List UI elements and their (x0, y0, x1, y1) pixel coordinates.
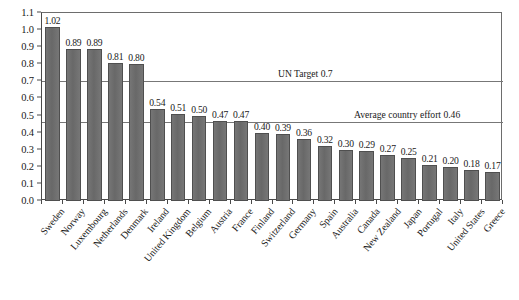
bar (234, 121, 249, 201)
bar (87, 49, 102, 201)
bar-group: 0.80 (126, 13, 147, 201)
chart-figure: 1.11.00.90.80.70.60.50.40.30.20.10.0 UN … (0, 0, 519, 300)
bar (443, 167, 458, 201)
bar-group: 0.51 (168, 13, 189, 201)
bar (192, 116, 207, 201)
bar (276, 134, 291, 201)
bar-value-label: 0.39 (275, 122, 291, 133)
bar-value-label: 0.18 (464, 158, 480, 169)
bar-value-label: 0.50 (191, 104, 207, 115)
bar (150, 109, 165, 201)
bar-group: 0.89 (84, 13, 105, 201)
bar-value-label: 0.32 (317, 134, 333, 145)
x-axis-tick-mark (502, 200, 503, 204)
bar (359, 151, 374, 201)
y-axis-tick-label: 0.2 (21, 160, 34, 171)
y-axis-tick-label: 0.3 (21, 143, 34, 154)
bar-group: 0.18 (461, 13, 482, 201)
bar (213, 121, 228, 201)
bar-group: 0.40 (252, 13, 273, 201)
bar-value-label: 0.54 (149, 97, 165, 108)
bar-group: 0.29 (356, 13, 377, 201)
bar (464, 170, 479, 201)
bar (297, 139, 312, 201)
bar-group: 0.47 (210, 13, 231, 201)
bar (485, 172, 500, 201)
y-axis-tick-label: 0.8 (21, 58, 34, 69)
bar-group: 0.47 (231, 13, 252, 201)
bar-series: 1.020.890.890.810.800.540.510.500.470.47… (42, 13, 503, 201)
y-axis-tick-label: 1.1 (21, 7, 34, 18)
y-axis-tick-label: 0.0 (21, 195, 34, 206)
bar-value-label: 0.80 (128, 52, 144, 63)
y-axis-tick-label: 0.6 (21, 92, 34, 103)
bar-value-label: 1.02 (44, 15, 60, 26)
bar-group: 0.89 (63, 13, 84, 201)
bar (380, 155, 395, 201)
y-axis-tick-label: 0.7 (21, 75, 34, 86)
bar-group: 0.20 (440, 13, 461, 201)
bar (66, 49, 81, 201)
bar-group: 1.02 (42, 13, 63, 201)
bar (318, 146, 333, 201)
bar (45, 27, 60, 201)
bar-value-label: 0.81 (107, 51, 123, 62)
x-axis-labels: SwedenNorwayLuxembourgNetherlandsDenmark… (41, 204, 502, 300)
y-axis-tick-label: 0.9 (21, 41, 34, 52)
bar-value-label: 0.40 (254, 121, 270, 132)
bar-group: 0.81 (105, 13, 126, 201)
bar-group: 0.21 (419, 13, 440, 201)
bar-value-label: 0.20 (443, 155, 459, 166)
bar-value-label: 0.51 (170, 102, 186, 113)
bar (255, 133, 270, 201)
bar-value-label: 0.21 (422, 153, 438, 164)
bar-value-label: 0.30 (338, 138, 354, 149)
bar-value-label: 0.89 (86, 37, 102, 48)
bar-group: 0.39 (273, 13, 294, 201)
bar-value-label: 0.17 (485, 160, 501, 171)
bar (108, 63, 123, 201)
bar-group: 0.25 (398, 13, 419, 201)
y-axis: 1.11.00.90.80.70.60.50.40.30.20.10.0 (0, 0, 41, 212)
bar-value-label: 0.47 (233, 109, 249, 120)
y-axis-tick-label: 0.1 (21, 177, 34, 188)
y-axis-tick-label: 0.5 (21, 109, 34, 120)
bar-group: 0.17 (482, 13, 503, 201)
bar-group: 0.32 (314, 13, 335, 201)
bar-value-label: 0.29 (359, 139, 375, 150)
y-axis-tick-label: 1.0 (21, 24, 34, 35)
bar-value-label: 0.47 (212, 109, 228, 120)
y-axis-tick-label: 0.4 (21, 126, 34, 137)
bar (339, 150, 354, 201)
bar (171, 114, 186, 201)
bar (129, 64, 144, 201)
bar-value-label: 0.27 (380, 143, 396, 154)
plot-area: UN Target 0.7Average country effort 0.46… (41, 12, 502, 200)
bar-group: 0.30 (335, 13, 356, 201)
bar-group: 0.50 (189, 13, 210, 201)
bar (422, 165, 437, 201)
bar-group: 0.36 (293, 13, 314, 201)
bar-value-label: 0.25 (401, 146, 417, 157)
bar (401, 158, 416, 201)
bar-value-label: 0.89 (65, 37, 81, 48)
bar-value-label: 0.36 (296, 127, 312, 138)
bar-group: 0.27 (377, 13, 398, 201)
bar-group: 0.54 (147, 13, 168, 201)
